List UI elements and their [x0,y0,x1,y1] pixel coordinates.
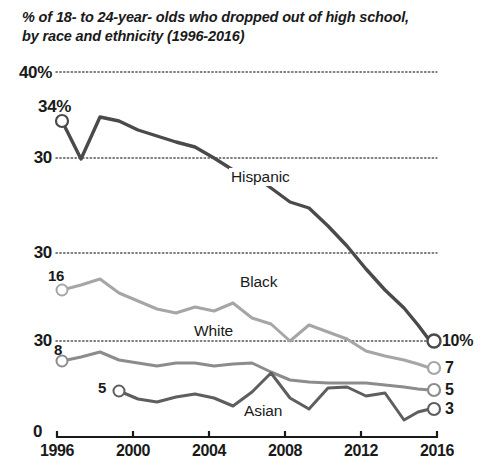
series-line-hispanic [62,117,430,341]
series-line-white [62,352,430,390]
end-label-hispanic: 10% [442,332,473,350]
series-line-black [62,279,430,368]
start-label-white: 8 [54,341,62,358]
gridlines [56,72,437,341]
chart-svg [0,0,499,465]
series-label-black: Black [238,273,279,291]
series-label-hispanic: Hispanic [229,168,292,186]
end-label-white: 5 [445,381,454,399]
chart-root: % of 18- to 24-year- olds who dropped ou… [0,0,499,465]
series-end-marker-white [428,384,440,396]
y-axis-label-zero: 0 [33,422,42,442]
end-label-asian: 3 [445,400,454,418]
y-axis-label-30-panel3: 30 [2,331,52,351]
chart-plot-area [0,0,499,465]
series-start-marker-black [57,285,68,296]
series-label-white: White [192,322,235,340]
end-label-black: 7 [445,359,454,377]
series-start-marker-asian [114,386,125,397]
series-end-marker-hispanic [428,335,441,348]
start-label-hispanic: 34% [38,97,71,117]
x-tick-label-2000: 2000 [98,442,168,460]
x-tick-label-2008: 2008 [250,442,320,460]
start-label-asian: 5 [98,379,106,396]
x-tick-label-2004: 2004 [174,442,244,460]
series-end-marker-black [428,362,440,374]
y-axis-label-30-panel1: 30 [2,148,52,168]
y-axis-label-30-panel2: 30 [2,243,52,263]
x-axis [57,431,437,437]
x-tick-label-2016: 2016 [402,442,472,460]
x-tick-label-1996: 1996 [22,442,92,460]
series-label-asian: Asian [242,402,284,420]
series-end-marker-asian [428,403,440,415]
y-axis-label-40: 40% [2,63,52,83]
x-tick-label-2012: 2012 [326,442,396,460]
start-label-black: 16 [48,267,64,284]
